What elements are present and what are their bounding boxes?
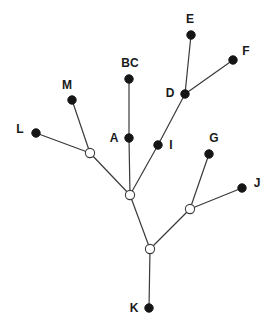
edge-G-n3 xyxy=(190,154,209,209)
phylogenetic-tree-diagram: BCMLAIDEFGJK xyxy=(0,0,270,324)
leaf-node-j xyxy=(238,184,246,192)
tree-edges xyxy=(36,35,242,308)
leaf-node-f xyxy=(229,56,237,64)
tree-labels: BCMLAIDEFGJK xyxy=(16,12,260,315)
node-label-bc: BC xyxy=(121,56,139,70)
node-label-k: K xyxy=(130,301,139,315)
edge-n2-n4 xyxy=(130,195,150,249)
node-label-i: I xyxy=(169,138,172,152)
edge-M-n1 xyxy=(72,100,90,153)
node-label-m: M xyxy=(62,78,72,92)
leaf-node-m xyxy=(68,96,76,104)
node-label-d: D xyxy=(166,86,175,100)
leaf-node-g xyxy=(205,150,213,158)
node-label-l: L xyxy=(16,122,23,136)
edge-I-n2 xyxy=(130,145,158,195)
edge-n3-n4 xyxy=(150,209,190,249)
node-label-j: J xyxy=(254,176,261,190)
leaf-node-e xyxy=(187,31,195,39)
edge-J-n3 xyxy=(190,188,242,209)
node-label-e: E xyxy=(186,12,194,26)
internal-node-n1 xyxy=(85,148,94,157)
leaf-node-l xyxy=(32,129,40,137)
leaf-node-i xyxy=(154,141,162,149)
leaf-node-k xyxy=(145,304,153,312)
internal-node-n4 xyxy=(145,244,154,253)
node-label-g: G xyxy=(209,131,218,145)
internal-node-n2 xyxy=(125,190,134,199)
edge-L-n1 xyxy=(36,133,90,153)
edge-E-D xyxy=(185,35,191,94)
edge-n4-K xyxy=(149,249,150,308)
leaf-node-d xyxy=(181,90,189,98)
node-label-a: A xyxy=(110,131,119,145)
edge-A-n2 xyxy=(129,138,130,195)
leaf-node-a xyxy=(125,134,133,142)
node-label-f: F xyxy=(242,44,249,58)
leaf-node-bc xyxy=(125,75,133,83)
edge-F-D xyxy=(185,60,233,94)
internal-node-n3 xyxy=(185,204,194,213)
edge-n1-n2 xyxy=(90,153,130,195)
